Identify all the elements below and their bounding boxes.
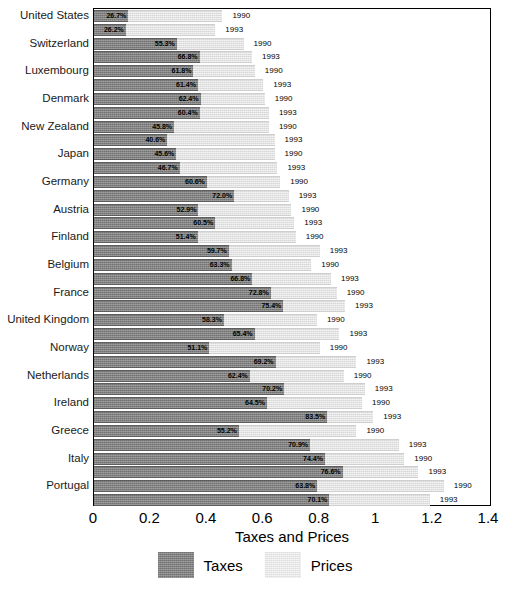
bar-value-label: 63.8% <box>295 480 317 492</box>
bar-value-label: 66.8% <box>230 273 252 285</box>
bar-row: 55.3%1990 <box>94 38 489 50</box>
x-tick-label: 1.4 <box>478 509 499 526</box>
bar-value-label: 64.5% <box>245 397 267 409</box>
bar-year-label: 1990 <box>292 204 320 216</box>
bar-value-label: 70.2% <box>262 383 284 395</box>
bar-year-label: 1990 <box>244 38 272 50</box>
x-tick-label: 0.2 <box>139 509 160 526</box>
bar-segment-prices <box>267 397 362 409</box>
bar-row: 62.4%1990 <box>94 93 489 105</box>
bar-value-label: 45.8% <box>152 121 174 133</box>
bar-year-label: 1990 <box>444 480 472 492</box>
bar-value-label: 51.4% <box>176 231 198 243</box>
bar-row: 51.1%1990 <box>94 342 489 354</box>
bar-segment-prices <box>193 65 254 77</box>
bar-value-label: 60.5% <box>193 217 215 229</box>
bar-year-label: 1990 <box>265 93 293 105</box>
bar-value-label: 63.3% <box>210 259 232 271</box>
bar-year-label: 1993 <box>252 51 280 63</box>
bar-row: 26.2%1993 <box>94 24 489 36</box>
bar-segment-taxes <box>94 411 327 423</box>
legend-swatch-prices-icon <box>265 552 301 578</box>
bar-value-label: 52.9% <box>177 204 199 216</box>
bar-value-label: 46.7% <box>158 162 180 174</box>
bar-value-label: 26.2% <box>104 24 126 36</box>
bar-value-label: 83.5% <box>305 411 327 423</box>
category-axis-labels: United StatesSwitzerlandLuxembourgDenmar… <box>0 8 89 506</box>
plot-area: 26.7%199026.2%199355.3%199066.8%199361.8… <box>93 8 491 506</box>
bar-segment-taxes <box>94 466 343 478</box>
bar-year-label: 1993 <box>294 217 322 229</box>
category-label-luxembourg: Luxembourg <box>0 64 89 76</box>
bar-value-label: 40.6% <box>145 134 167 146</box>
bar-row: 76.6%1993 <box>94 466 489 478</box>
category-label-new-zealand: New Zealand <box>0 120 89 132</box>
category-label-portugal: Portugal <box>0 479 89 491</box>
bar-segment-prices <box>343 466 419 478</box>
bar-value-label: 70.9% <box>288 439 310 451</box>
bar-value-label: 72.0% <box>212 190 234 202</box>
bar-segment-prices <box>167 134 274 146</box>
bar-value-label: 62.4% <box>179 93 201 105</box>
bar-year-label: 1993 <box>331 273 359 285</box>
bar-year-label: 1990 <box>362 397 390 409</box>
bar-segment-prices <box>229 245 320 257</box>
bar-row: 61.4%1993 <box>94 79 489 91</box>
bar-segment-taxes <box>94 356 276 368</box>
bar-value-label: 61.4% <box>176 79 198 91</box>
bar-row: 72.0%1993 <box>94 190 489 202</box>
bar-row: 61.8%1990 <box>94 65 489 77</box>
bar-value-label: 60.4% <box>178 107 200 119</box>
bar-segment-prices <box>276 356 357 368</box>
bar-row: 63.8%1990 <box>94 480 489 492</box>
bar-row: 70.2%1993 <box>94 383 489 395</box>
category-label-france: France <box>0 286 89 298</box>
bar-segment-prices <box>327 411 373 423</box>
legend-item-prices: Prices <box>265 552 353 578</box>
x-axis-title: Taxes and Prices <box>93 528 491 545</box>
bar-value-label: 58.3% <box>202 314 224 326</box>
bar-segment-prices <box>232 259 312 271</box>
bar-segment-taxes <box>94 383 284 395</box>
bar-year-label: 1993 <box>373 411 401 423</box>
bar-row: 65.4%1993 <box>94 328 489 340</box>
bar-segment-prices <box>252 273 331 285</box>
bar-year-label: 1990 <box>269 121 297 133</box>
bar-segment-prices <box>128 10 222 22</box>
bar-year-label: 1990 <box>255 65 283 77</box>
bar-segment-prices <box>200 51 252 63</box>
category-label-austria: Austria <box>0 203 89 215</box>
bar-year-label: 1990 <box>280 176 308 188</box>
bar-segment-prices <box>198 231 296 243</box>
bar-segment-taxes <box>94 480 317 492</box>
bar-segment-taxes <box>94 494 329 506</box>
bar-row: 55.2%1990 <box>94 425 489 437</box>
bar-segment-prices <box>325 453 404 465</box>
category-label-japan: Japan <box>0 147 89 159</box>
bar-row: 66.8%1993 <box>94 51 489 63</box>
x-tick-label: 0.4 <box>195 509 216 526</box>
chart-legend: Taxes Prices <box>0 552 510 578</box>
bar-segment-prices <box>207 176 280 188</box>
category-label-united-states: United States <box>0 9 89 21</box>
bar-year-label: 1993 <box>418 466 446 478</box>
bar-year-label: 1993 <box>339 328 367 340</box>
x-tick-label: 0.6 <box>252 509 273 526</box>
bar-segment-taxes <box>94 287 271 299</box>
bar-value-label: 72.8% <box>249 287 271 299</box>
bar-row: 51.4%1990 <box>94 231 489 243</box>
bar-row: 69.2%1993 <box>94 356 489 368</box>
bar-value-label: 62.4% <box>228 370 250 382</box>
bar-row: 74.4%1990 <box>94 453 489 465</box>
bar-value-label: 61.8% <box>172 65 194 77</box>
bar-segment-prices <box>198 204 291 216</box>
bar-row: 70.1%1993 <box>94 494 489 506</box>
category-label-germany: Germany <box>0 175 89 187</box>
bar-year-label: 1993 <box>345 300 373 312</box>
bar-row: 63.3%1990 <box>94 259 489 271</box>
bar-segment-prices <box>250 370 344 382</box>
bar-row: 62.4%1990 <box>94 370 489 382</box>
bar-year-label: 1993 <box>365 383 393 395</box>
bar-segment-prices <box>283 300 345 312</box>
x-tick-label: 0 <box>89 509 97 526</box>
